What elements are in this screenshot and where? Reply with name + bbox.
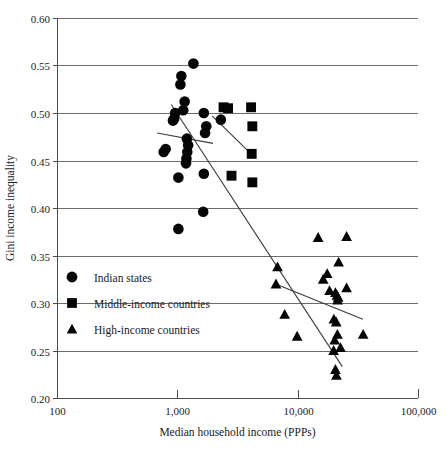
legend-label-triangle: High-income countries [94, 324, 200, 337]
data-point-circle [173, 172, 184, 183]
x-tick-label: 100 [49, 405, 66, 417]
data-point-circle [188, 58, 199, 69]
data-point-circle [200, 128, 211, 139]
y-tick-label: 0.55 [31, 60, 51, 72]
y-tick-label: 0.60 [31, 13, 51, 25]
legend-marker-circle [67, 272, 78, 283]
data-point-square [247, 121, 257, 131]
data-point-square [227, 171, 237, 181]
y-tick-label: 0.25 [31, 346, 51, 358]
data-point-circle [175, 79, 186, 90]
data-point-circle [173, 224, 184, 235]
data-point-circle [199, 108, 210, 119]
y-tick-label: 0.50 [31, 108, 51, 120]
y-tick-label: 0.45 [31, 156, 51, 168]
y-axis-title: Gini income inequality [4, 155, 17, 261]
data-point-square [223, 103, 233, 113]
chart-background [0, 0, 445, 455]
data-point-circle [158, 147, 169, 158]
x-tick-label: 1,000 [165, 405, 190, 417]
legend-label-square: Middle-income countries [94, 298, 210, 310]
data-point-circle [168, 115, 179, 126]
data-point-square [247, 149, 257, 159]
y-tick-label: 0.35 [31, 251, 51, 263]
y-tick-label: 0.40 [31, 203, 51, 215]
y-tick-label: 0.30 [31, 298, 51, 310]
chart-page: 0.600.550.500.450.400.350.300.250.20 100… [0, 0, 445, 455]
data-point-circle [198, 206, 209, 217]
legend-label-circle: Indian states [94, 272, 152, 284]
x-tick-label: 100,000 [401, 405, 437, 417]
x-tick-label: 10,000 [283, 405, 314, 417]
x-axis-title: Median household income (PPPs) [159, 426, 315, 439]
data-point-circle [181, 158, 192, 169]
y-tick-label: 0.20 [31, 393, 51, 405]
data-point-square [246, 102, 256, 112]
data-point-circle [216, 114, 227, 125]
legend-marker-square [67, 298, 77, 308]
scatter-chart: 0.600.550.500.450.400.350.300.250.20 100… [0, 0, 445, 455]
data-point-square [247, 177, 257, 187]
data-point-circle [199, 168, 210, 179]
